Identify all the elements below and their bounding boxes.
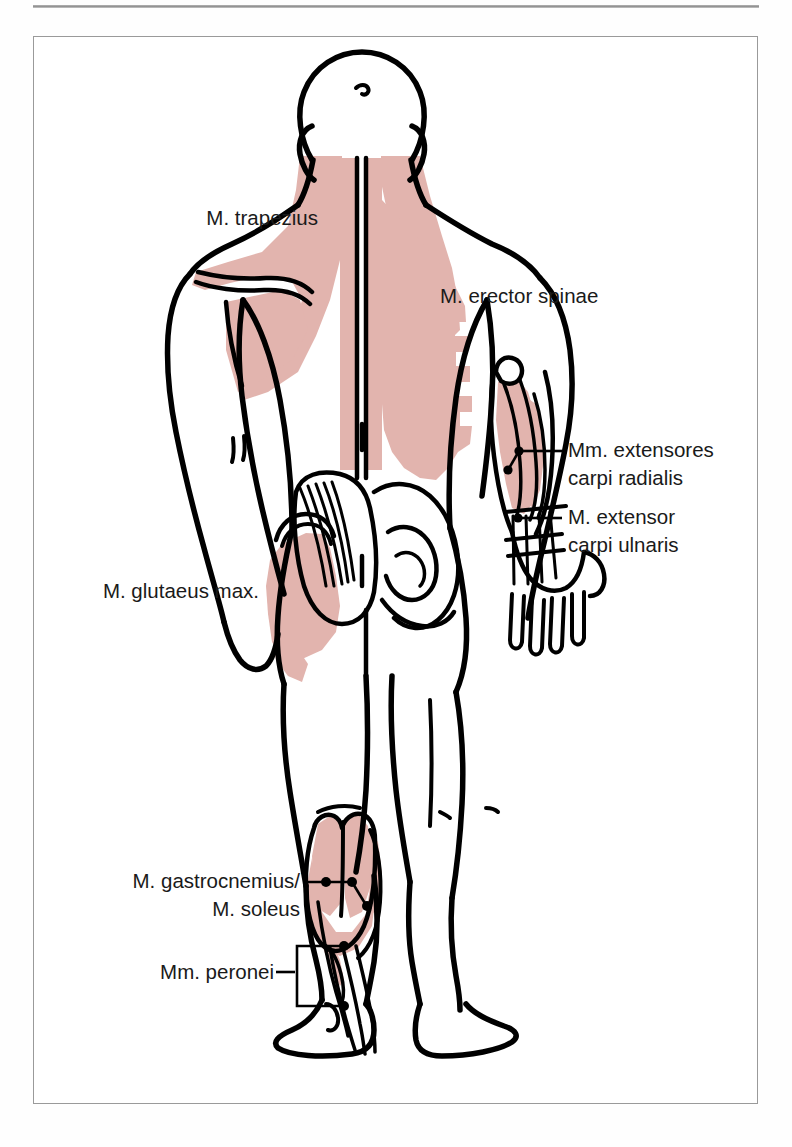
muscle-erector-spinae-left: [340, 158, 356, 470]
calf-right-inner: [409, 882, 420, 1004]
pelvis-inner-arc: [396, 553, 425, 586]
elbow-mark-left-b: [243, 436, 245, 460]
extensor-tendon-2: [526, 516, 528, 584]
knee-dimple-right: [486, 808, 498, 812]
knee-crease-left: [318, 806, 360, 812]
aponeurosis-fan-5: [332, 482, 354, 580]
leader-dot-soleus: [362, 901, 372, 911]
label-erector-spinae: M. erector spinae: [440, 284, 598, 307]
leader-dot-gastrocnemius-medial: [321, 877, 331, 887]
calf-right-outer: [451, 898, 460, 1010]
lateral-malleolus: [326, 1004, 338, 1030]
label-peronei: Mm. peronei: [160, 960, 274, 983]
finger-right-2: [530, 598, 544, 655]
label-extensor-carpi-ulnaris-line2: carpi ulnaris: [568, 533, 679, 556]
label-extensor-carpi-ulnaris-line1: M. extensor: [568, 505, 675, 528]
leg-right-inner: [391, 676, 410, 882]
figure-page: M. trapezius M. erector spinae Mm. exten…: [0, 0, 792, 1147]
label-extensores-carpi-radialis-line2: carpi radialis: [568, 466, 683, 489]
leg-right-outer: [452, 692, 463, 898]
leader-dot-peronei-top: [339, 941, 349, 951]
finger-right-1: [510, 594, 524, 649]
finger-right-4: [572, 592, 584, 645]
anatomy-illustration: M. trapezius M. erector spinae Mm. exten…: [0, 0, 792, 1147]
leg-right-medial-line: [430, 700, 432, 826]
leg-left-outer: [283, 684, 306, 886]
pelvis-sacrum: [386, 527, 437, 600]
elbow-mark-left-a: [232, 438, 234, 462]
extensor-tendon-4: [550, 512, 556, 578]
hand-left: [224, 622, 278, 669]
head-outline: [300, 52, 424, 160]
label-glutaeus-maximus: M. glutaeus max.: [103, 579, 259, 602]
occiput-mark: [356, 85, 369, 95]
label-gastrocnemius-soleus-line2: M. soleus: [212, 897, 300, 920]
lateral-epicondyle: [496, 358, 522, 384]
leader-dot-peronei-bottom: [339, 1001, 349, 1011]
label-trapezius: M. trapezius: [206, 206, 318, 229]
foot-right: [415, 1004, 516, 1056]
arm-left-outer: [167, 274, 224, 622]
label-gastrocnemius-soleus-line1: M. gastrocnemius/: [133, 869, 301, 892]
leader-dot-extensor-ulnaris: [513, 513, 522, 522]
finger-right-3: [550, 598, 564, 653]
label-extensores-carpi-radialis-line1: Mm. extensores: [568, 438, 714, 461]
thumb-right: [584, 552, 604, 596]
knee-crease-right: [440, 812, 450, 818]
extensor-tendon-1: [513, 516, 514, 584]
gastroc-head-separation: [341, 822, 343, 916]
